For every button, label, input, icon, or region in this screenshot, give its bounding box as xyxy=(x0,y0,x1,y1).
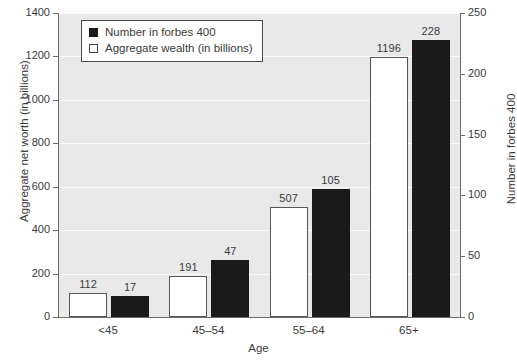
bar-value-label-number-in-forbes-400: 17 xyxy=(103,281,157,293)
legend-item-aggregate-wealth: Aggregate wealth (in billions) xyxy=(89,41,253,57)
bar-number-in-forbes-400 xyxy=(412,40,450,317)
y-tick-label-right: 0 xyxy=(468,310,508,322)
y-tick-label-right: 150 xyxy=(468,128,508,140)
bar-value-label-aggregate-wealth: 191 xyxy=(161,261,215,273)
legend-item-number-in-forbes-400: Number in forbes 400 xyxy=(89,25,253,41)
legend-label-aggregate-wealth: Aggregate wealth (in billions) xyxy=(105,41,253,57)
x-tick-label: 65+ xyxy=(364,324,454,336)
bar-aggregate-wealth xyxy=(69,293,107,317)
y-tick-label-left: 800 xyxy=(0,136,50,148)
x-tick-label: 55–64 xyxy=(264,324,354,336)
y-tick-label-left: 1200 xyxy=(0,49,50,61)
bar-aggregate-wealth xyxy=(270,207,308,317)
bar-number-in-forbes-400 xyxy=(111,296,149,317)
bar-value-label-number-in-forbes-400: 228 xyxy=(404,25,458,37)
chart-legend: Number in forbes 400 Aggregate wealth (i… xyxy=(81,20,263,62)
y-tick-label-right: 100 xyxy=(468,188,508,200)
bar-value-label-number-in-forbes-400: 105 xyxy=(304,174,358,186)
bar-aggregate-wealth xyxy=(370,57,408,317)
y-tick-label-left: 400 xyxy=(0,223,50,235)
x-axis-title: Age xyxy=(58,342,459,354)
bar-value-label-number-in-forbes-400: 47 xyxy=(203,245,257,257)
y-tick-label-left: 200 xyxy=(0,267,50,279)
y-tick-label-right: 200 xyxy=(468,67,508,79)
bar-number-in-forbes-400 xyxy=(312,189,350,317)
bar-number-in-forbes-400 xyxy=(211,260,249,317)
y-axis-title-right: Number in forbes 400 xyxy=(505,24,517,274)
x-tick-label: 45–54 xyxy=(163,324,253,336)
y-tick-label-left: 1400 xyxy=(0,6,50,18)
y-tick-label-left: 0 xyxy=(0,310,50,322)
x-tick-label: <45 xyxy=(63,324,153,336)
bar-value-label-aggregate-wealth: 507 xyxy=(262,192,316,204)
legend-label-number-in-forbes-400: Number in forbes 400 xyxy=(105,25,216,41)
y-tick-label-left: 1000 xyxy=(0,93,50,105)
bar-aggregate-wealth xyxy=(169,276,207,317)
legend-swatch-black-icon xyxy=(89,28,98,37)
bar-value-label-aggregate-wealth: 1196 xyxy=(362,42,416,54)
y-tick-label-right: 50 xyxy=(468,249,508,261)
legend-swatch-white-icon xyxy=(89,44,98,53)
y-tick-label-left: 600 xyxy=(0,180,50,192)
plot-area: 11217191475071051196228 Number in forbes… xyxy=(58,13,461,318)
y-tick-label-right: 250 xyxy=(468,6,508,18)
